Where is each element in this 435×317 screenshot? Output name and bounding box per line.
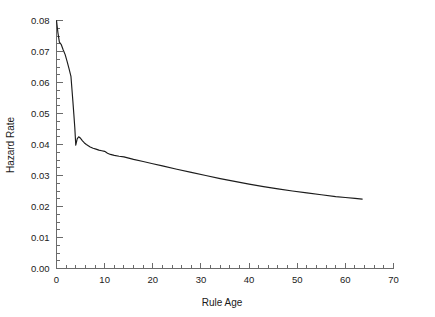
x-axis-title: Rule Age <box>202 297 243 308</box>
y-tick-label: 0.02 <box>31 201 50 212</box>
y-tick-label: 0.07 <box>31 46 50 57</box>
x-axis-tick-labels: 010203040506070 <box>54 274 399 285</box>
y-tick-label: 0.00 <box>31 263 50 274</box>
y-tick-label: 0.04 <box>31 139 50 150</box>
x-tick-label: 50 <box>292 274 303 285</box>
y-tick-label: 0.05 <box>31 108 50 119</box>
x-tick-label: 10 <box>99 274 110 285</box>
hazard-rate-curve <box>57 21 363 200</box>
chart-figure: 010203040506070 0.000.010.020.030.040.05… <box>0 0 435 317</box>
hazard-rate-line-chart: 010203040506070 0.000.010.020.030.040.05… <box>0 0 435 317</box>
y-tick-label: 0.08 <box>31 15 50 26</box>
y-tick-label: 0.01 <box>31 232 50 243</box>
y-tick-label: 0.03 <box>31 170 50 181</box>
x-axis-ticks <box>57 263 394 269</box>
y-axis-ticks <box>57 21 63 269</box>
x-tick-label: 0 <box>54 274 59 285</box>
axes-group <box>57 21 394 269</box>
x-tick-label: 30 <box>196 274 207 285</box>
y-axis-title: Hazard Rate <box>5 116 16 173</box>
x-tick-label: 20 <box>147 274 158 285</box>
x-tick-label: 60 <box>340 274 351 285</box>
x-tick-label: 70 <box>388 274 399 285</box>
y-tick-label: 0.06 <box>31 77 50 88</box>
y-axis-tick-labels: 0.000.010.020.030.040.050.060.070.08 <box>31 15 50 274</box>
x-tick-label: 40 <box>244 274 255 285</box>
